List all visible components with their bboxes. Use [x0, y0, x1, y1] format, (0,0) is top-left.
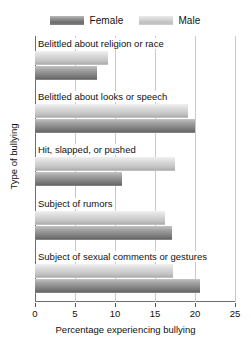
bar-group: Belittled about looks or speech [35, 89, 235, 142]
category-label: Hit, slapped, or pushed [37, 144, 137, 155]
chart-legend: Female Male [0, 12, 251, 28]
bar-male [35, 157, 175, 171]
legend-item-female: Female [50, 15, 123, 26]
x-tick-label-20: 20 [183, 308, 207, 319]
legend-label-female: Female [89, 15, 123, 26]
bar-group: Hit, slapped, or pushed [35, 142, 235, 195]
male-swatch-icon [139, 16, 173, 25]
bar-female [35, 279, 200, 293]
category-label: Belittled about religion or race [37, 38, 165, 49]
female-swatch-icon [50, 16, 84, 25]
x-tick-label-5: 5 [63, 308, 87, 319]
x-tick-5 [75, 303, 76, 307]
x-tick-10 [115, 303, 116, 307]
x-tick-label-10: 10 [103, 308, 127, 319]
x-tick-label-25: 25 [223, 308, 247, 319]
x-tick-15 [155, 303, 156, 307]
x-tick-0 [35, 303, 36, 307]
x-tick-25 [235, 303, 236, 307]
bar-female [35, 226, 172, 240]
category-label: Subject of sexual comments or gestures [37, 251, 208, 262]
legend-label-male: Male [178, 15, 200, 26]
plot-area: Belittled about religion or raceBelittle… [35, 36, 235, 302]
bar-male [35, 104, 188, 118]
legend-item-male: Male [139, 15, 200, 26]
y-axis-title: Type of bullying [8, 97, 19, 217]
bar-female [35, 119, 195, 133]
bar-group: Belittled about religion or race [35, 36, 235, 89]
gridline-25 [235, 36, 236, 302]
x-axis-title: Percentage experiencing bullying [0, 324, 251, 335]
category-label: Subject of rumors [37, 198, 113, 209]
category-label: Belittled about looks or speech [37, 91, 168, 102]
x-tick-label-15: 15 [143, 308, 167, 319]
bar-male [35, 264, 173, 278]
bar-male [35, 211, 165, 225]
bar-group: Subject of sexual comments or gestures [35, 249, 235, 302]
x-tick-label-0: 0 [23, 308, 47, 319]
bar-female [35, 172, 122, 186]
bar-male [35, 51, 108, 65]
x-tick-20 [195, 303, 196, 307]
bar-group: Subject of rumors [35, 196, 235, 249]
bar-female [35, 66, 97, 80]
